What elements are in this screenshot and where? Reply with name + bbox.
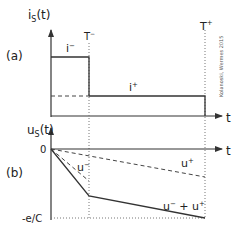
panel-a: (a) iS(t) t T− T+ i− i+ — [6, 8, 231, 218]
signal-diagram: (a) iS(t) t T− T+ i− i+ (b) uS(t) t 0 — [0, 0, 245, 233]
i-plus-curve — [89, 96, 205, 116]
panel-b-y-axis-label: uS(t) — [27, 123, 54, 139]
i-minus-label: i− — [66, 42, 75, 55]
zero-label: 0 — [40, 144, 46, 155]
min-level-label: -e/C — [22, 213, 42, 224]
u-plus-label: u+ — [181, 157, 194, 170]
panel-a-label: (a) — [6, 49, 23, 63]
u-sum-label: u− + u+ — [163, 200, 205, 213]
t-plus-label: T+ — [199, 19, 213, 33]
i-minus-curve — [51, 57, 89, 96]
i-plus-label: i+ — [129, 81, 138, 94]
panel-a-x-axis-label: t — [226, 111, 231, 125]
panel-b-x-axis-label: t — [226, 144, 231, 158]
u-minus-label: u− — [77, 161, 90, 174]
panel-b-label: (b) — [6, 166, 23, 180]
t-minus-label: T− — [83, 30, 95, 42]
panel-b: (b) uS(t) t 0 -e/C u+ u− u− + u+ — [6, 123, 231, 224]
panel-a-y-axis-label: iS(t) — [28, 8, 51, 24]
credit-text: Kolanoski, Wermes 2015 — [218, 36, 224, 97]
